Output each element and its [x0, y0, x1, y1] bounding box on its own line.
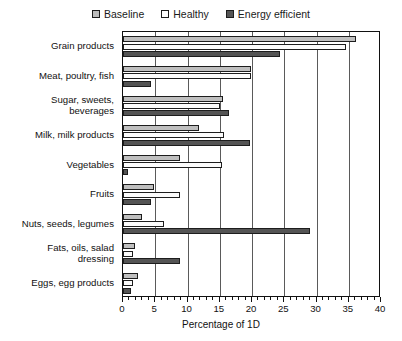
x-tick-label: 15	[213, 303, 224, 314]
bar-group	[123, 180, 379, 210]
x-tick-minor	[148, 297, 149, 300]
x-tick-label: 5	[152, 303, 157, 314]
bar-healthy	[123, 192, 180, 198]
legend-item-baseline: Baseline	[92, 9, 144, 20]
x-tick-label: 40	[375, 303, 386, 314]
x-tick-minor	[128, 297, 129, 300]
x-tick-minor	[296, 297, 297, 300]
x-tick-minor	[232, 297, 233, 300]
y-axis-label: Nuts, seeds, legumes	[0, 218, 114, 229]
legend-swatch-healthy-icon	[161, 10, 169, 18]
bar-baseline	[123, 96, 223, 102]
bar-energy	[123, 288, 131, 294]
x-tick-major	[219, 297, 220, 302]
y-axis-label: Sugar, sweets, beverages	[0, 94, 114, 116]
x-tick-minor	[374, 297, 375, 300]
bar-energy	[123, 110, 229, 116]
x-tick-minor	[303, 297, 304, 300]
x-tick-minor	[238, 297, 239, 300]
y-axis-label: Fats, oils, salad dressing	[0, 242, 114, 264]
chart-legend: Baseline Healthy Energy efficient	[0, 9, 402, 20]
legend-item-energy-efficient: Energy efficient	[226, 9, 310, 20]
y-axis-label: Eggs, egg products	[0, 277, 114, 288]
bar-group	[123, 239, 379, 269]
legend-label-baseline: Baseline	[104, 9, 144, 20]
x-tick-minor	[290, 297, 291, 300]
x-tick-major	[154, 297, 155, 302]
x-tick-minor	[206, 297, 207, 300]
bar-baseline	[123, 125, 199, 131]
bar-baseline	[123, 243, 135, 249]
x-tick-minor	[309, 297, 310, 300]
bar-healthy	[123, 73, 251, 79]
x-tick-label: 25	[278, 303, 289, 314]
bar-baseline	[123, 273, 138, 279]
x-tick-minor	[361, 297, 362, 300]
x-tick-minor	[322, 297, 323, 300]
y-axis-category-labels: Grain productsMeat, poultry, fishSugar, …	[0, 31, 118, 297]
bar-group	[123, 268, 379, 298]
x-tick-minor	[193, 297, 194, 300]
x-tick-label: 30	[310, 303, 321, 314]
y-axis-label: Fruits	[0, 188, 114, 199]
x-tick-minor	[335, 297, 336, 300]
x-tick-minor	[167, 297, 168, 300]
bar-energy	[123, 199, 151, 205]
y-axis-label: Meat, poultry, fish	[0, 70, 114, 81]
bar-energy	[123, 51, 280, 57]
legend-swatch-energy-efficient-icon	[226, 10, 234, 18]
legend-item-healthy: Healthy	[161, 9, 209, 20]
y-axis-label: Milk, milk products	[0, 129, 114, 140]
bar-energy	[123, 228, 310, 234]
bar-group	[123, 209, 379, 239]
bar-group	[123, 62, 379, 92]
bar-healthy	[123, 132, 224, 138]
bar-energy	[123, 258, 180, 264]
x-tick-major	[251, 297, 252, 302]
bar-healthy	[123, 44, 346, 50]
x-axis-title-text: Percentage of 1D	[142, 319, 260, 330]
x-tick-major	[187, 297, 188, 302]
bar-baseline	[123, 184, 154, 190]
x-tick-label: 10	[181, 303, 192, 314]
x-tick-minor	[328, 297, 329, 300]
x-tick-minor	[245, 297, 246, 300]
bar-energy	[123, 169, 128, 175]
x-tick-minor	[199, 297, 200, 300]
x-tick-major	[348, 297, 349, 302]
x-tick-minor	[270, 297, 271, 300]
x-tick-minor	[174, 297, 175, 300]
bar-group	[123, 150, 379, 180]
x-tick-minor	[341, 297, 342, 300]
bar-group	[123, 121, 379, 151]
x-axis-tick-labels: 0510152025303540	[0, 303, 402, 317]
x-tick-label: 20	[246, 303, 257, 314]
x-tick-minor	[354, 297, 355, 300]
bar-healthy	[123, 103, 220, 109]
chart-container: Baseline Healthy Energy efficient Grain …	[0, 0, 402, 341]
bar-healthy	[123, 162, 222, 168]
y-axis-label: Grain products	[0, 40, 114, 51]
x-tick-label: 0	[119, 303, 124, 314]
x-tick-minor	[141, 297, 142, 300]
x-tick-minor	[264, 297, 265, 300]
x-tick-label: 35	[342, 303, 353, 314]
legend-label-energy-efficient: Energy efficient	[238, 9, 310, 20]
x-tick-minor	[135, 297, 136, 300]
bar-baseline	[123, 214, 142, 220]
x-tick-minor	[212, 297, 213, 300]
bar-healthy	[123, 221, 164, 227]
bar-healthy	[123, 251, 133, 257]
y-axis-label: Vegetables	[0, 159, 114, 170]
bar-healthy	[123, 280, 133, 286]
bar-baseline	[123, 66, 251, 72]
legend-swatch-baseline-icon	[92, 10, 100, 18]
x-tick-major	[283, 297, 284, 302]
bar-group	[123, 91, 379, 121]
x-axis-title: Percentage of 1D	[0, 319, 402, 330]
bar-energy	[123, 140, 250, 146]
x-tick-minor	[225, 297, 226, 300]
bar-baseline	[123, 36, 356, 42]
x-tick-major	[380, 297, 381, 302]
bar-groups	[123, 32, 379, 296]
